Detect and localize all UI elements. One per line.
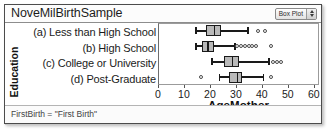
x-axis-tick-label: 60: [308, 88, 320, 100]
outlier-point: [269, 44, 273, 48]
boxplot-canvas: [159, 24, 318, 84]
category-label-list: (a) Less than High School(b) High School…: [21, 26, 156, 84]
x-axis-tick-label: 50: [282, 88, 294, 100]
plot-window: NoveMilBirthSample Box Plot Education (a…: [4, 4, 322, 124]
whisker-cap: [211, 58, 213, 65]
chart-area: Education (a) Less than High School(b) H…: [5, 23, 321, 107]
x-axis-tick-label: 30: [230, 88, 242, 100]
y-axis-label-text: Education: [8, 47, 20, 98]
whisker-cap: [195, 27, 197, 34]
category-label: (b) High School: [82, 42, 156, 55]
page-title: NoveMilBirthSample: [11, 6, 122, 20]
whisker-line: [211, 61, 268, 63]
screenshot-root: NoveMilBirthSample Box Plot Education (a…: [0, 0, 330, 132]
whisker-cap: [219, 74, 221, 81]
plot-type-select-value: Box Plot: [276, 9, 306, 19]
whisker-cap: [247, 27, 249, 34]
x-axis-tick-label: 0: [155, 88, 161, 100]
outlier-point: [263, 29, 267, 33]
category-label: (d) Post-Graduate: [71, 73, 157, 86]
median-line: [207, 41, 209, 52]
plot-frame: [158, 23, 319, 85]
x-axis-tick-label: 10: [178, 88, 190, 100]
y-axis-label: Education: [7, 41, 21, 103]
filter-description: FirstBirth = "First Birth": [11, 109, 97, 119]
filter-footer: FirstBirth = "First Birth": [5, 105, 321, 123]
median-line: [232, 56, 234, 67]
box: [229, 72, 242, 83]
median-line: [237, 72, 239, 83]
x-axis-tick-label: 40: [256, 88, 268, 100]
x-axis: AgeMother 0102030405060: [158, 85, 319, 107]
whisker-cap: [195, 43, 197, 50]
plot-type-select[interactable]: Box Plot: [275, 8, 317, 20]
x-axis-tick-label: 20: [204, 88, 216, 100]
whisker-cap: [268, 58, 270, 65]
median-line: [214, 25, 216, 36]
outlier-point: [269, 75, 273, 79]
outlier-point: [279, 60, 283, 64]
category-label: (a) Less than High School: [33, 26, 156, 39]
up-down-arrows-icon[interactable]: [306, 9, 316, 19]
outlier-point: [199, 75, 203, 79]
outlier-point: [254, 44, 258, 48]
category-label: (c) College or University: [42, 57, 156, 70]
outlier-point: [256, 29, 260, 33]
window-titlebar: NoveMilBirthSample Box Plot: [5, 5, 321, 23]
whisker-cap: [263, 74, 265, 81]
